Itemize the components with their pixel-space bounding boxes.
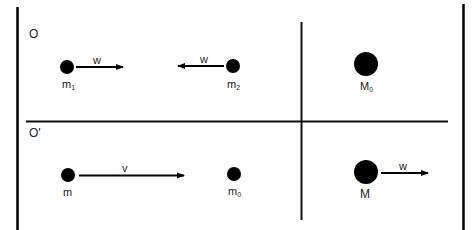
velocity-label: w <box>92 54 101 66</box>
top-particle-2: w m2 <box>178 53 240 91</box>
diagram-canvas: O O′ w m1 w m2 M0 v m m0 <box>0 0 474 230</box>
velocity-label: v <box>122 162 128 174</box>
bottom-product-mass: w M <box>354 160 428 201</box>
particle-dot <box>354 52 378 76</box>
particle-dot <box>226 59 240 73</box>
top-particle-1: w m1 <box>60 54 123 91</box>
particle-dot <box>354 160 378 184</box>
top-product-mass: M0 <box>354 52 378 93</box>
particle-dot <box>227 167 241 181</box>
particle-dot <box>61 168 75 182</box>
collision-frames-diagram: O O′ w m1 w m2 M0 v m m0 <box>0 0 474 230</box>
velocity-label: w <box>398 160 407 172</box>
particle-label: m <box>63 186 72 198</box>
frame-label-top: O <box>29 27 38 41</box>
velocity-label: w <box>199 53 208 65</box>
particle-label: M <box>360 187 370 201</box>
particle-label: M0 <box>360 80 373 93</box>
frame-label-bottom: O′ <box>29 126 41 140</box>
particle-label: m1 <box>62 78 75 91</box>
particle-dot <box>60 60 74 74</box>
particle-label: m2 <box>227 78 240 91</box>
bottom-particle-2: m0 <box>227 167 241 198</box>
bottom-particle-1: v m <box>61 162 184 198</box>
particle-label: m0 <box>228 185 241 198</box>
